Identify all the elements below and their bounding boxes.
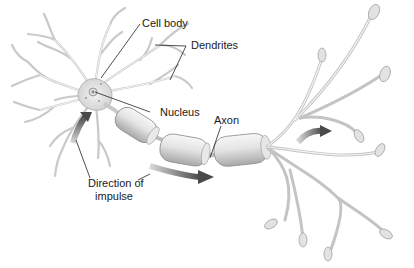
myelin-sheath-1 <box>111 103 163 148</box>
direction-arrow-terminal <box>298 125 332 142</box>
label-direction-line1: Direction of <box>88 177 140 190</box>
myelin-sheath-3 <box>213 132 273 168</box>
label-dendrites: Dendrites <box>191 39 238 52</box>
label-direction-of-impulse: Direction of impulse <box>88 177 140 203</box>
myelin-sheath-2 <box>158 132 212 168</box>
direction-arrow-dendrite <box>73 112 92 143</box>
label-cell-body: Cell body <box>142 17 188 30</box>
label-axon: Axon <box>214 114 239 127</box>
label-nucleus: Nucleus <box>160 106 200 119</box>
direction-arrow-axon <box>150 166 214 184</box>
label-direction-line2: impulse <box>88 190 140 203</box>
